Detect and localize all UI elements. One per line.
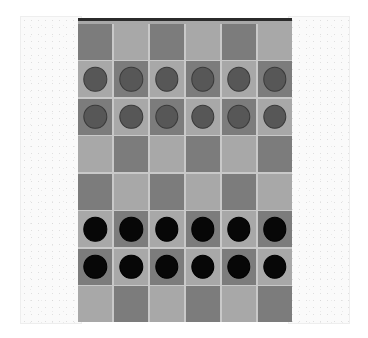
black-checker-piece[interactable] [191, 254, 214, 278]
board-square[interactable] [186, 61, 220, 97]
board-square[interactable] [114, 136, 148, 172]
board-square[interactable] [258, 211, 292, 247]
gray-checker-piece[interactable] [227, 105, 250, 129]
gray-checker-piece[interactable] [155, 67, 178, 91]
board-square[interactable] [114, 99, 148, 135]
board-square[interactable] [78, 211, 112, 247]
board-square[interactable] [258, 61, 292, 97]
black-checker-piece[interactable] [227, 217, 250, 241]
board-square[interactable] [78, 24, 112, 60]
board-square[interactable] [114, 174, 148, 210]
board-square[interactable] [258, 249, 292, 285]
board-square[interactable] [186, 136, 220, 172]
board-square[interactable] [150, 211, 184, 247]
board-square[interactable] [150, 61, 184, 97]
black-checker-piece[interactable] [227, 254, 250, 278]
board-square[interactable] [78, 174, 112, 210]
board-square[interactable] [186, 24, 220, 60]
black-checker-piece[interactable] [84, 217, 107, 241]
board-square[interactable] [150, 99, 184, 135]
left-side-panel [20, 16, 82, 324]
checkers-board[interactable] [78, 18, 292, 322]
board-square[interactable] [258, 286, 292, 322]
gray-checker-piece[interactable] [263, 67, 286, 91]
board-square[interactable] [258, 136, 292, 172]
board-square[interactable] [150, 286, 184, 322]
board-square[interactable] [258, 174, 292, 210]
black-checker-piece[interactable] [155, 254, 178, 278]
gray-checker-piece[interactable] [263, 105, 286, 129]
black-checker-piece[interactable] [263, 217, 286, 241]
board-square[interactable] [114, 24, 148, 60]
gray-checker-piece[interactable] [227, 67, 250, 91]
board-square[interactable] [258, 99, 292, 135]
gray-checker-piece[interactable] [84, 67, 107, 91]
board-square[interactable] [222, 286, 256, 322]
board-grid[interactable] [78, 24, 292, 322]
black-checker-piece[interactable] [155, 217, 178, 241]
board-square[interactable] [222, 61, 256, 97]
board-square[interactable] [222, 24, 256, 60]
board-square[interactable] [150, 249, 184, 285]
board-square[interactable] [222, 136, 256, 172]
right-side-panel [288, 16, 350, 324]
board-square[interactable] [78, 136, 112, 172]
board-square[interactable] [186, 249, 220, 285]
board-square[interactable] [114, 211, 148, 247]
black-checker-piece[interactable] [119, 254, 142, 278]
board-square[interactable] [114, 249, 148, 285]
board-scene [0, 0, 368, 338]
gray-checker-piece[interactable] [155, 105, 178, 129]
gray-checker-piece[interactable] [191, 105, 214, 129]
board-square[interactable] [78, 286, 112, 322]
board-square[interactable] [150, 24, 184, 60]
board-square[interactable] [222, 249, 256, 285]
board-square[interactable] [222, 174, 256, 210]
gray-checker-piece[interactable] [119, 67, 142, 91]
board-square[interactable] [222, 211, 256, 247]
gray-checker-piece[interactable] [119, 105, 142, 129]
black-checker-piece[interactable] [119, 217, 142, 241]
board-square[interactable] [222, 99, 256, 135]
board-square[interactable] [78, 61, 112, 97]
board-square[interactable] [114, 61, 148, 97]
board-square[interactable] [186, 286, 220, 322]
board-square[interactable] [186, 174, 220, 210]
board-square[interactable] [186, 211, 220, 247]
board-square[interactable] [78, 249, 112, 285]
board-square[interactable] [258, 24, 292, 60]
board-square[interactable] [150, 174, 184, 210]
gray-checker-piece[interactable] [191, 67, 214, 91]
board-square[interactable] [114, 286, 148, 322]
black-checker-piece[interactable] [84, 254, 107, 278]
gray-checker-piece[interactable] [84, 105, 107, 129]
black-checker-piece[interactable] [191, 217, 214, 241]
board-square[interactable] [150, 136, 184, 172]
black-checker-piece[interactable] [263, 254, 286, 278]
board-square[interactable] [186, 99, 220, 135]
board-square[interactable] [78, 99, 112, 135]
